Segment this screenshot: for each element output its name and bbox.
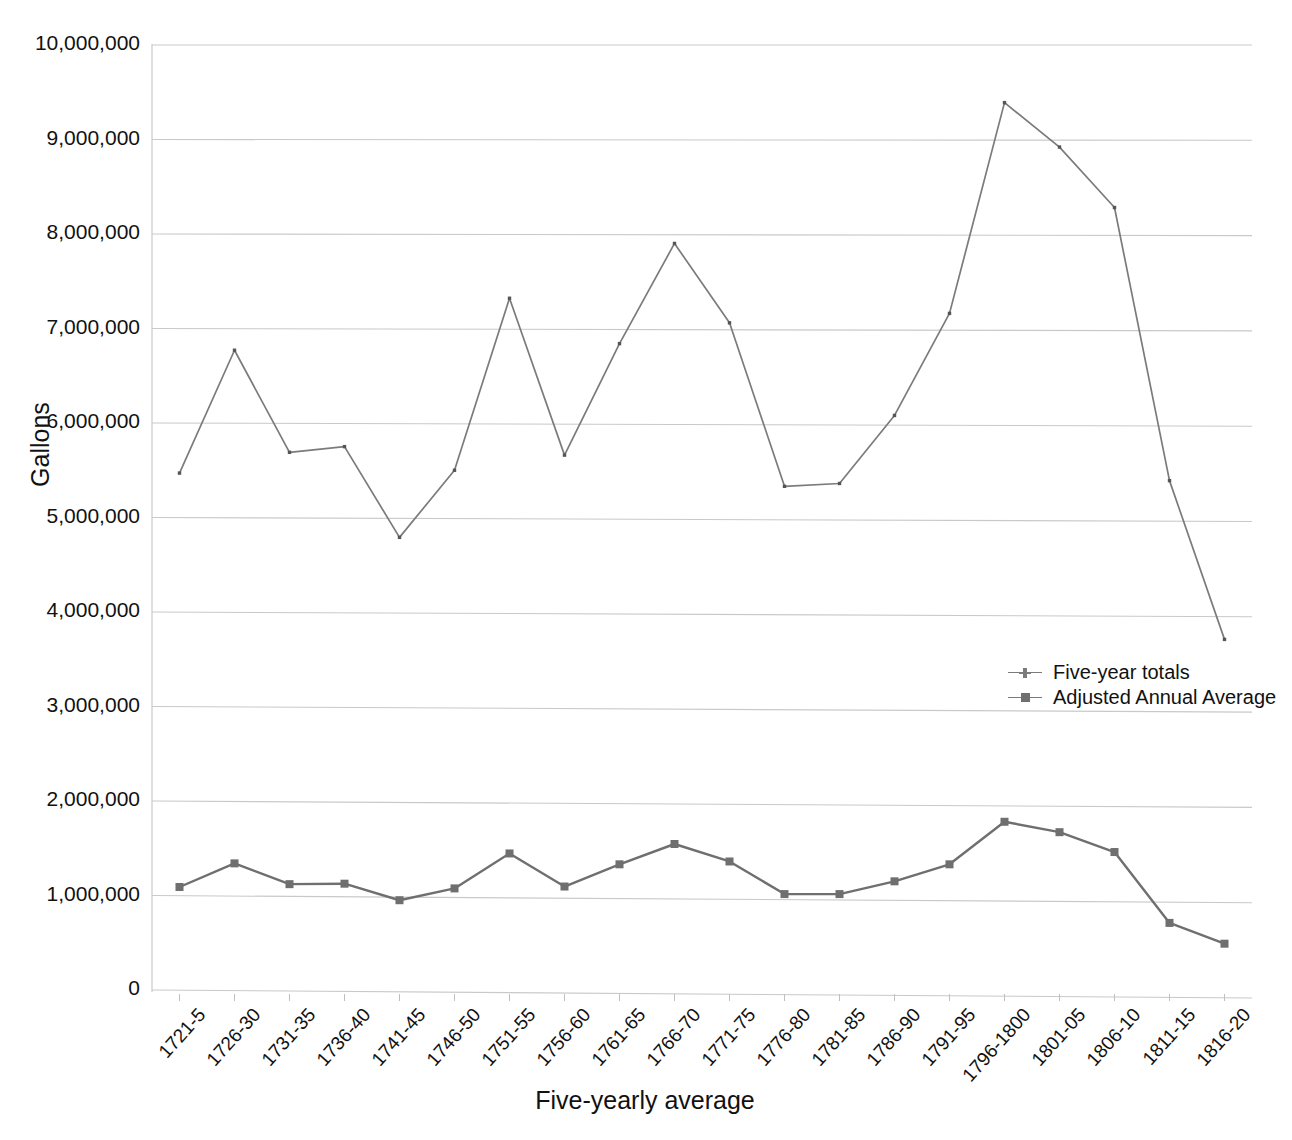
legend-marker-square-icon: [1008, 691, 1042, 705]
data-point-marker: [891, 877, 899, 885]
data-point-marker: [341, 880, 349, 888]
x-axis-title: Five-yearly average: [140, 1086, 1150, 1115]
y-tick-label: 0: [0, 976, 140, 1000]
chart-container: Gallons 10,000,0009,000,0008,000,0007,00…: [0, 0, 1292, 1140]
data-point-marker: [233, 349, 236, 352]
data-point-marker: [176, 883, 184, 891]
data-point-marker: [618, 342, 621, 345]
data-point-marker: [398, 536, 401, 539]
data-point-marker: [726, 857, 734, 865]
data-point-marker: [1003, 101, 1006, 104]
series-line-2: [180, 822, 1225, 944]
data-point-marker: [781, 890, 789, 898]
data-point-marker: [836, 890, 844, 898]
data-point-marker: [783, 485, 786, 488]
series-line-1: [180, 103, 1225, 640]
data-point-marker: [563, 453, 566, 456]
data-point-marker: [1058, 145, 1061, 148]
legend-item-five-year-totals[interactable]: Five-year totals: [1008, 660, 1276, 685]
data-point-marker: [616, 860, 624, 868]
data-point-marker: [451, 884, 459, 892]
y-tick-label: 5,000,000: [0, 504, 140, 528]
data-point-marker: [286, 880, 294, 888]
chart-legend: Five-year totals Adjusted Annual Average: [1008, 660, 1276, 710]
gridline: [152, 423, 1252, 426]
data-point-marker: [1168, 479, 1171, 482]
data-point-marker: [288, 451, 291, 454]
gridline: [152, 234, 1252, 236]
gridline: [152, 801, 1252, 807]
data-point-marker: [946, 860, 954, 868]
plot-area: [152, 45, 1252, 990]
y-tick-label: 8,000,000: [0, 220, 140, 244]
y-tick-label: 7,000,000: [0, 315, 140, 339]
data-point-marker: [673, 242, 676, 245]
plot-svg: [152, 45, 1252, 990]
data-point-marker: [343, 445, 346, 448]
legend-item-adjusted-annual-average[interactable]: Adjusted Annual Average: [1008, 685, 1276, 710]
gridline: [152, 896, 1252, 903]
data-point-marker: [1223, 638, 1226, 641]
data-point-marker: [231, 859, 239, 867]
data-point-marker: [396, 896, 404, 904]
data-point-marker: [1001, 818, 1009, 826]
y-tick-label: 10,000,000: [0, 31, 140, 55]
data-point-marker: [1166, 919, 1174, 927]
gridline: [152, 140, 1252, 141]
legend-label: Five-year totals: [1053, 661, 1190, 684]
y-tick-label: 1,000,000: [0, 882, 140, 906]
y-tick-label: 9,000,000: [0, 126, 140, 150]
y-tick-label: 3,000,000: [0, 693, 140, 717]
legend-label: Adjusted Annual Average: [1053, 686, 1276, 709]
data-point-marker: [561, 883, 569, 891]
y-tick-label: 6,000,000: [0, 409, 140, 433]
data-point-marker: [506, 849, 514, 857]
data-point-marker: [671, 840, 679, 848]
data-point-marker: [838, 482, 841, 485]
data-point-marker: [893, 414, 896, 417]
gridline: [152, 612, 1252, 617]
legend-marker-cross-icon: [1008, 666, 1042, 680]
data-point-marker: [728, 321, 731, 324]
data-point-marker: [453, 469, 456, 472]
data-point-marker: [508, 297, 511, 300]
data-point-marker: [1113, 206, 1116, 209]
data-point-marker: [948, 312, 951, 315]
gridline: [152, 518, 1252, 522]
data-point-marker: [1111, 848, 1119, 856]
y-tick-label: 4,000,000: [0, 598, 140, 622]
gridline: [152, 329, 1252, 331]
data-point-marker: [1056, 828, 1064, 836]
data-point-marker: [1221, 940, 1229, 948]
data-point-marker: [178, 471, 181, 474]
gridline: [152, 990, 1252, 998]
y-tick-label: 2,000,000: [0, 787, 140, 811]
